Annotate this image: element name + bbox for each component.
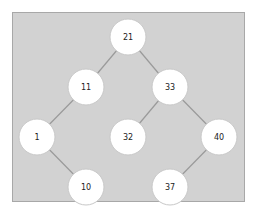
tree-node-37: 37 [152,169,188,205]
tree-diagram: 211133132401037 [0,0,254,224]
node-label: 1 [34,133,39,142]
node-label: 40 [214,133,224,142]
tree-node-11: 11 [68,69,104,105]
tree-edges [37,37,219,187]
tree-node-10: 10 [68,169,104,205]
tree-node-21: 21 [110,19,146,55]
tree-node-1: 1 [19,119,55,155]
tree-node-32: 32 [110,119,146,155]
node-label: 11 [81,83,91,92]
tree-node-33: 33 [152,69,188,105]
tree-nodes: 211133132401037 [19,19,237,205]
node-label: 21 [123,33,133,42]
tree-node-40: 40 [201,119,237,155]
node-label: 10 [81,183,91,192]
node-label: 32 [123,133,133,142]
node-label: 37 [165,183,175,192]
node-label: 33 [165,83,175,92]
